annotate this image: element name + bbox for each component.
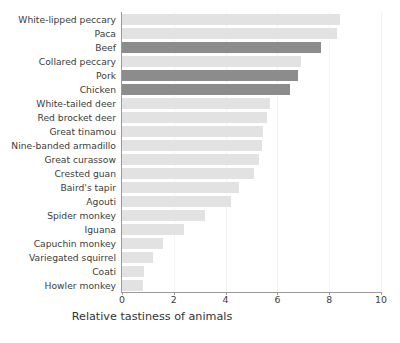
y-axis-label: Variegated squirrel — [29, 252, 116, 263]
y-axis-label: Beef — [95, 42, 116, 53]
bar — [122, 224, 184, 235]
bar — [122, 14, 340, 25]
bar-row — [122, 70, 381, 84]
bar — [122, 154, 259, 165]
x-axis-title: Relative tastiness of animals — [0, 310, 400, 323]
bar-row — [122, 224, 381, 238]
bar-row — [122, 196, 381, 210]
y-axis-label: Chicken — [80, 84, 116, 95]
x-axis-title-text: Relative tastiness of animals — [72, 310, 233, 323]
bar-row — [122, 56, 381, 70]
y-axis-line — [121, 12, 122, 293]
y-axis-label: Crested guan — [54, 168, 116, 179]
chart-figure: White-lipped peccaryPacaBeefCollared pec… — [0, 0, 400, 343]
bar-row — [122, 98, 381, 112]
bar — [122, 196, 231, 207]
bar — [122, 252, 153, 263]
x-tick-label-2: 2 — [154, 294, 194, 305]
y-axis-label: Coati — [92, 266, 116, 277]
bar-row — [122, 210, 381, 224]
y-axis-label: White-lipped peccary — [18, 14, 116, 25]
y-axis-label: Howler monkey — [45, 280, 116, 291]
y-axis-label: Nine-banded armadillo — [11, 140, 116, 151]
bar — [122, 168, 254, 179]
bar-row — [122, 84, 381, 98]
bar-row — [122, 42, 381, 56]
bar — [122, 280, 143, 291]
y-axis-label: Red brocket deer — [37, 112, 116, 123]
bar-row — [122, 154, 381, 168]
bar — [122, 140, 262, 151]
bar — [122, 112, 267, 123]
y-axis-label: Spider monkey — [47, 210, 116, 221]
x-tick-label-4: 4 — [206, 294, 246, 305]
bar-row — [122, 168, 381, 182]
y-axis-label: Collared peccary — [39, 56, 116, 67]
bar — [122, 42, 321, 53]
bar — [122, 238, 163, 249]
x-tick-label-10: 10 — [361, 294, 400, 305]
y-axis-label: Baird's tapir — [60, 182, 116, 193]
plot-area — [122, 12, 381, 292]
bar — [122, 266, 144, 277]
bar-row — [122, 14, 381, 28]
y-axis-label: White-tailed deer — [36, 98, 116, 109]
y-axis-label: Great tinamou — [49, 126, 116, 137]
y-axis-label: Pork — [96, 70, 116, 81]
bar-row — [122, 266, 381, 280]
bar — [122, 56, 301, 67]
bar-row — [122, 28, 381, 42]
bar — [122, 210, 205, 221]
bar-row — [122, 252, 381, 266]
gridline-10 — [381, 12, 382, 292]
bar-row — [122, 112, 381, 126]
y-axis-label: Capuchin monkey — [34, 238, 116, 249]
y-axis-label: Agouti — [86, 196, 116, 207]
y-axis-label: Iguana — [85, 224, 116, 235]
bar-row — [122, 182, 381, 196]
bar — [122, 182, 239, 193]
bar-row — [122, 126, 381, 140]
bar-row — [122, 238, 381, 252]
bar — [122, 84, 290, 95]
bar — [122, 28, 337, 39]
y-axis-label: Great curassow — [45, 154, 117, 165]
x-axis-line — [121, 292, 382, 293]
bar — [122, 126, 263, 137]
bar — [122, 70, 298, 81]
x-tick-label-6: 6 — [257, 294, 297, 305]
y-axis-label: Paca — [95, 28, 116, 39]
bar-row — [122, 140, 381, 154]
bar — [122, 98, 270, 109]
x-tick-label-8: 8 — [309, 294, 349, 305]
x-tick-label-0: 0 — [102, 294, 142, 305]
